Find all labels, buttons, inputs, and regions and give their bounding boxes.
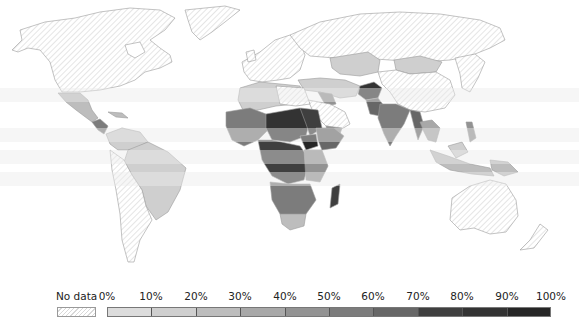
legend-bin-90-100 [507, 307, 551, 317]
legend-tick-80: 80% [450, 290, 473, 302]
legend-no-data-swatch [57, 307, 96, 317]
legend-tick-0: 0% [99, 290, 116, 302]
legend: No data 0% 10% 20% 30% 40% 50% 60% 70% 8… [0, 288, 579, 320]
region-australia [450, 180, 518, 234]
legend-tick-50: 50% [317, 290, 340, 302]
ghost-text-band [0, 172, 579, 186]
ghost-text-band [0, 128, 579, 142]
region-uk [246, 50, 256, 62]
region-new-zealand [520, 224, 548, 250]
legend-bin-50-60 [329, 307, 373, 317]
legend-bin-70-80 [418, 307, 462, 317]
legend-no-data-label: No data [56, 290, 97, 302]
legend-tick-30: 30% [228, 290, 251, 302]
legend-bin-40-50 [285, 307, 329, 317]
legend-tick-90: 90% [495, 290, 518, 302]
ghost-text-band [0, 150, 579, 164]
legend-bin-60-70 [373, 307, 417, 317]
legend-tick-10: 10% [139, 290, 162, 302]
region-caribbean [108, 112, 128, 118]
legend-tick-20: 20% [184, 290, 207, 302]
world-choropleth-map [0, 0, 579, 285]
legend-bin-0-10 [107, 307, 151, 317]
region-east-asia-coast [455, 54, 485, 92]
legend-bin-20-30 [196, 307, 240, 317]
region-greenland [185, 6, 240, 40]
legend-tick-70: 70% [406, 290, 429, 302]
region-north-america [12, 8, 175, 92]
legend-tick-60: 60% [361, 290, 384, 302]
legend-tick-100: 100% [536, 290, 566, 302]
legend-tick-40: 40% [273, 290, 296, 302]
legend-bin-10-20 [151, 307, 195, 317]
legend-bin-80-90 [462, 307, 506, 317]
region-south-africa [280, 214, 306, 230]
legend-bin-30-40 [240, 307, 284, 317]
ghost-text-band [0, 88, 579, 102]
map-svg [0, 0, 579, 285]
region-madagascar [330, 184, 340, 208]
